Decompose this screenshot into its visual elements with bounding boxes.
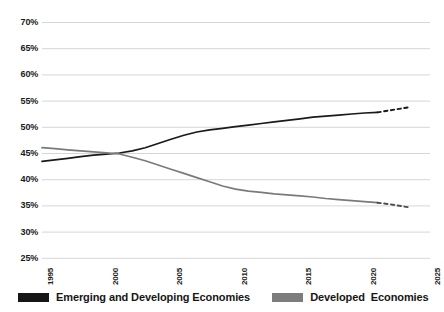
y-axis-tick-label: 25% <box>4 253 38 263</box>
y-axis-tick-label: 60% <box>4 69 38 79</box>
chart-plot-area <box>0 0 444 312</box>
y-axis-tick-label: 30% <box>4 227 38 237</box>
series-emerging-solid-line <box>42 112 377 161</box>
series-emerging-dashed-projection <box>377 107 409 112</box>
line-chart: 70% 65% 60% 55% 50% 45% 40% 35% 30% 25% … <box>0 0 444 312</box>
x-axis-tick-label: 2005 <box>175 268 184 285</box>
legend-item-emerging-and-developing-economies: Emerging and Developing Economies <box>18 291 250 303</box>
series-developed-economies <box>42 148 410 208</box>
y-axis-tick-label: 35% <box>4 200 38 210</box>
x-axis-tick-label: 1995 <box>46 268 55 285</box>
y-axis-tick-label: 40% <box>4 174 38 184</box>
x-axis-tick-label: 2025 <box>433 268 442 285</box>
y-axis-tick-label: 65% <box>4 43 38 53</box>
legend-swatch-icon <box>18 293 49 302</box>
horizontal-gridlines <box>42 23 430 259</box>
legend-swatch-icon <box>272 293 303 302</box>
chart-legend: Emerging and Developing Economies Develo… <box>0 286 444 308</box>
series-developed-dashed-projection <box>377 203 409 208</box>
y-axis-tick-label: 55% <box>4 96 38 106</box>
y-axis-tick-label: 45% <box>4 148 38 158</box>
x-axis-tick-label: 2000 <box>111 268 120 285</box>
legend-item-developed-economies: Developed Economies <box>272 291 428 303</box>
legend-label: Emerging and Developing Economies <box>56 291 250 303</box>
x-axis-tick-label: 2010 <box>240 268 249 285</box>
legend-label: Developed Economies <box>310 291 428 303</box>
y-axis-tick-label: 70% <box>4 17 38 27</box>
x-axis-tick-label: 2020 <box>369 268 378 285</box>
y-axis-tick-label: 50% <box>4 122 38 132</box>
x-axis-tick-label: 2015 <box>304 268 313 285</box>
